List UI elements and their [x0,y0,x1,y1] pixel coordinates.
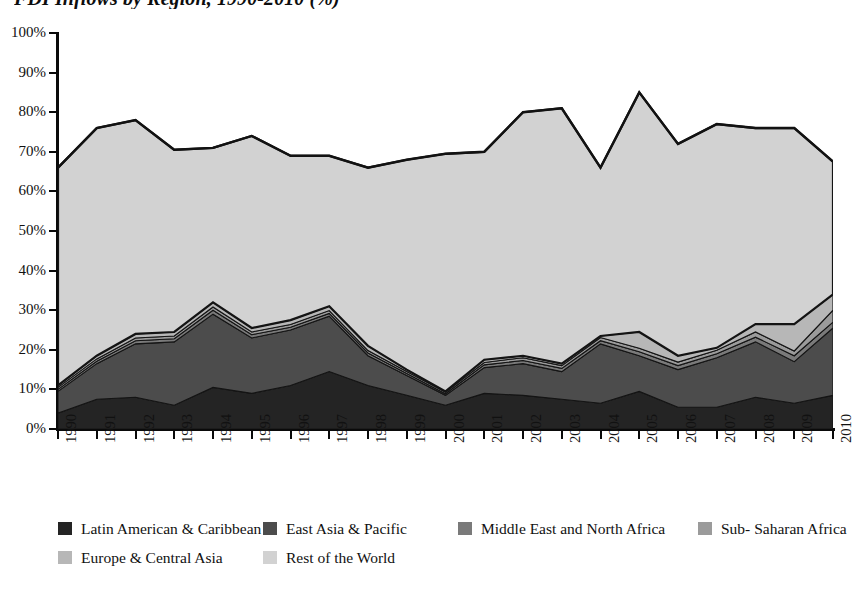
legend-label: Sub- Saharan Africa [721,521,847,537]
legend-item[interactable]: East Asia & Pacific [263,521,407,537]
legend-label: Middle East and North Africa [481,521,665,537]
y-axis-tick [49,72,56,74]
y-axis-labels: 0%10%20%30%40%50%60%70%80%90%100% [0,0,46,470]
legend-swatch-icon [263,551,277,564]
legend-row: Europe & Central AsiaRest of the World [58,543,858,572]
x-axis-tick-label: 2007 [723,414,738,443]
y-axis-tick [49,111,56,113]
y-axis-tick [49,349,56,351]
y-axis-tick-label: 70% [2,144,46,159]
legend-label: Europe & Central Asia [81,550,223,566]
legend-item[interactable]: Rest of the World [263,550,395,566]
x-axis-tick-label: 2004 [607,414,622,443]
y-axis-tick [49,151,56,153]
y-axis-tick [49,190,56,192]
y-axis-tick-label: 80% [2,104,46,119]
x-axis-tick [367,431,369,439]
x-axis-tick-label: 2006 [684,414,699,443]
x-axis-tick [57,431,59,439]
stacked-area-plot [58,33,833,429]
y-axis-tick [49,230,56,232]
x-axis-tick [638,431,640,439]
x-axis-tick-label: 1991 [103,414,118,443]
x-axis-tick-label: 2008 [762,414,777,443]
legend-item[interactable]: Europe & Central Asia [58,550,223,566]
page-title: FDI Inflows by Region, 1990-2010 (%) [14,0,340,9]
x-axis-tick-label: 2001 [490,414,505,443]
x-axis-tick [173,431,175,439]
legend-label: Rest of the World [286,550,395,566]
y-axis-tick-label: 10% [2,381,46,396]
x-axis-tick-label: 1995 [258,414,273,443]
x-axis-tick [793,431,795,439]
x-axis-tick [755,431,757,439]
x-axis-tick-label: 1998 [374,414,389,443]
x-axis-tick-label: 1994 [219,414,234,443]
legend-swatch-icon [58,551,72,564]
legend-item[interactable]: Sub- Saharan Africa [698,521,847,537]
x-axis-tick [832,431,834,439]
legend-swatch-icon [458,522,472,535]
x-axis-tick-label: 1999 [413,414,428,443]
x-axis-tick-label: 1992 [142,414,157,443]
x-axis-tick [290,431,292,439]
x-axis-tick [716,431,718,439]
x-axis-tick-label: 2009 [800,414,815,443]
y-axis-tick [49,388,56,390]
y-axis-tick-label: 30% [2,302,46,317]
legend-label: East Asia & Pacific [286,521,407,537]
x-axis-tick-label: 2000 [452,414,467,443]
x-axis-tick [328,431,330,439]
x-axis-tick [96,431,98,439]
legend-item[interactable]: Middle East and North Africa [458,521,665,537]
legend-swatch-icon [698,522,712,535]
x-axis-tick [212,431,214,439]
legend-label: Latin American & Caribbean [81,521,261,537]
y-axis-tick-label: 20% [2,342,46,357]
legend-swatch-icon [58,522,72,535]
x-axis-tick-label: 2005 [645,414,660,443]
y-axis-tick-label: 100% [2,25,46,40]
y-axis-tick [49,270,56,272]
x-axis-tick [483,431,485,439]
y-axis-tick [49,309,56,311]
x-axis-tick-label: 2002 [529,414,544,443]
x-axis-tick [445,431,447,439]
y-axis-tick-label: 90% [2,65,46,80]
x-axis-tick [677,431,679,439]
x-axis-tick-label: 1993 [180,414,195,443]
legend-swatch-icon [263,522,277,535]
chart-legend: Latin American & CaribbeanEast Asia & Pa… [58,514,858,572]
y-axis-tick-label: 50% [2,223,46,238]
y-axis-tick [49,428,56,430]
x-axis-tick [135,431,137,439]
plot-area [58,33,833,429]
chart-figure: FDI Inflows by Region, 1990-2010 (%) 0%1… [0,0,860,591]
y-axis-tick-label: 40% [2,263,46,278]
y-axis-tick [49,32,56,34]
y-axis-tick-label: 0% [2,421,46,436]
legend-row: Latin American & CaribbeanEast Asia & Pa… [58,514,858,543]
y-axis-tick-label: 60% [2,183,46,198]
x-axis-tick-label: 2003 [568,414,583,443]
x-axis-tick-label: 1997 [335,414,350,443]
x-axis-tick-label: 1990 [64,414,79,443]
x-axis-tick [561,431,563,439]
x-axis-tick-label: 2010 [839,414,854,443]
legend-item[interactable]: Latin American & Caribbean [58,521,261,537]
x-axis-tick-label: 1996 [297,414,312,443]
x-axis-tick [251,431,253,439]
x-axis-tick [406,431,408,439]
x-axis-tick [522,431,524,439]
x-axis-tick [600,431,602,439]
